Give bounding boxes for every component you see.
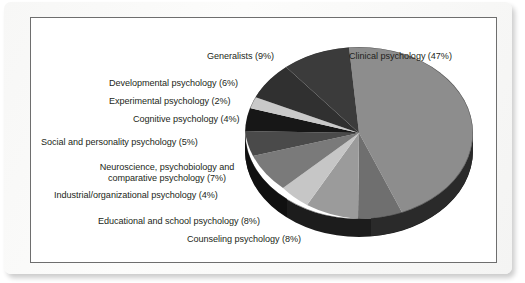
pie-label-clinical-psychology: Clinical psychology (47%): [349, 51, 452, 62]
pie-label-industrial-organizational-psychology: Industrial/organizational psychology (4%…: [54, 190, 218, 201]
page-root: Generalists (9%) Clinical psychology (47…: [0, 0, 525, 283]
pie-label-neuroscience-line1: Neuroscience, psychobiology and: [100, 162, 234, 172]
pie-label-developmental-psychology: Developmental psychology (6%): [109, 78, 238, 89]
pie-label-experimental-psychology: Experimental psychology (2%): [109, 96, 230, 107]
pie-label-cognitive-psychology: Cognitive psychology (4%): [133, 114, 239, 125]
figure-frame: Generalists (9%) Clinical psychology (47…: [30, 17, 497, 263]
pie-label-counseling-psychology: Counseling psychology (8%): [187, 234, 301, 245]
pie-chart: Generalists (9%) Clinical psychology (47…: [31, 18, 496, 262]
pie-label-neuroscience-psychobiology-comparative: Neuroscience, psychobiology and comparat…: [92, 162, 242, 183]
pie-label-neuroscience-line2: comparative psychology (7%): [108, 173, 226, 183]
pie-label-social-and-personality-psychology: Social and personality psychology (5%): [41, 137, 198, 148]
pie-label-generalists: Generalists (9%): [207, 51, 274, 62]
pie-label-educational-and-school-psychology: Educational and school psychology (8%): [98, 216, 260, 227]
